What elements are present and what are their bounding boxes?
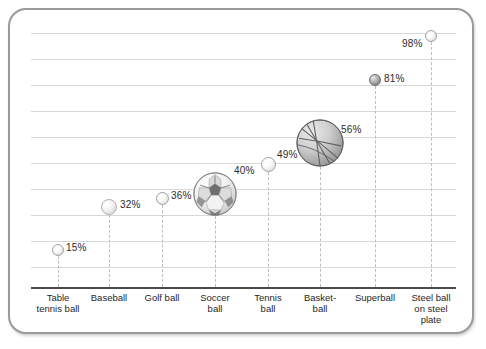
marker-basketball — [296, 119, 344, 167]
stem-steel-ball — [431, 42, 432, 287]
value-label-soccer-ball: 40% — [234, 165, 255, 176]
gridline-7 — [31, 215, 456, 216]
gridline-6 — [31, 189, 456, 190]
stem-soccer-ball — [215, 216, 216, 287]
marker-baseball — [101, 199, 117, 215]
value-label-baseball: 32% — [120, 199, 141, 210]
stem-golf-ball — [162, 205, 163, 288]
marker-golf-ball — [156, 192, 169, 205]
gridline-2 — [31, 85, 456, 86]
value-label-golf-ball: 36% — [171, 190, 192, 201]
marker-steel-ball — [425, 30, 437, 42]
marker-superball — [369, 74, 381, 86]
marker-tennis-ball — [261, 157, 276, 172]
value-label-table-tennis-ball: 15% — [66, 242, 87, 253]
value-label-superball: 81% — [384, 73, 405, 84]
value-label-basketball: 56% — [341, 124, 362, 135]
gridline-3 — [31, 111, 456, 112]
x-axis-line — [31, 287, 456, 289]
gridline-8 — [31, 241, 456, 242]
stem-basketball — [320, 167, 321, 287]
stem-baseball — [109, 215, 110, 287]
marker-soccer-ball — [193, 172, 237, 216]
gridline-1 — [31, 59, 456, 60]
chart-plot-area: 15%32%36%40%49%56%81%98% Table tennis ba… — [0, 0, 486, 349]
gridline-4 — [31, 137, 456, 138]
gridline-9 — [31, 267, 456, 268]
stem-tennis-ball — [268, 172, 269, 288]
stem-table-tennis-ball — [58, 256, 59, 287]
marker-table-tennis-ball — [52, 244, 64, 256]
gridline-0 — [31, 33, 456, 34]
cat-steel-ball: Steel ball on steel plate — [391, 292, 471, 325]
stem-superball — [375, 86, 376, 287]
gridline-5 — [31, 163, 456, 164]
value-label-steel-ball: 98% — [402, 38, 423, 49]
value-label-tennis-ball: 49% — [277, 149, 298, 160]
